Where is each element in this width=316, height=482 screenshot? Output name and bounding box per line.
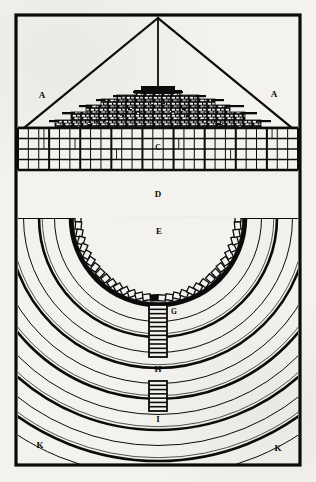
mound-ledge-left-3 xyxy=(79,105,90,107)
niche-box xyxy=(233,229,240,238)
mound-ledge-right-2 xyxy=(241,112,257,114)
label-I: I xyxy=(156,414,160,424)
label-A-left: A xyxy=(39,90,46,100)
niche-2 xyxy=(75,222,82,230)
niche-32 xyxy=(233,229,240,238)
stair-G xyxy=(149,305,167,357)
mound-rubble-2 xyxy=(104,119,109,122)
elevation-view xyxy=(18,18,298,130)
mound-ledge-right-5 xyxy=(195,95,206,97)
masonry-grid-band xyxy=(18,128,298,216)
mound-rubble-7 xyxy=(202,119,207,122)
niche-17 xyxy=(150,295,158,301)
niche-33 xyxy=(234,222,241,230)
niche-box xyxy=(234,222,241,230)
mound-ledge-left-2 xyxy=(62,112,75,114)
stair-I xyxy=(149,381,167,411)
mound-ledge-left-4 xyxy=(96,99,105,101)
figure-canvas: AACDEGHIKK xyxy=(0,0,316,482)
mound-rubble-5 xyxy=(170,111,175,114)
label-K-right: K xyxy=(274,443,281,453)
label-E: E xyxy=(156,226,162,236)
label-D: D xyxy=(155,189,162,199)
mound-rubble-16 xyxy=(150,102,154,104)
mound-rubble-8 xyxy=(218,123,222,126)
mound-rubble-13 xyxy=(214,121,217,123)
niche-box xyxy=(75,222,82,230)
mound-ledge-right-1 xyxy=(257,120,271,122)
mound-rubble-17 xyxy=(162,102,166,104)
niche-16 xyxy=(142,294,150,301)
label-C: C xyxy=(155,143,160,152)
mound-rubble-14 xyxy=(128,108,132,110)
mound-rubble-1 xyxy=(88,123,92,126)
mound-rubble-15 xyxy=(182,108,186,110)
mound-ledge-right-4 xyxy=(211,99,224,101)
amphitheatre-plan xyxy=(0,214,316,476)
engraving-plate: AACDEGHIKK xyxy=(0,0,316,482)
mound-rubble-12 xyxy=(96,121,99,123)
mound-rubble-4 xyxy=(136,111,141,114)
mound-ledge-right-3 xyxy=(226,105,244,107)
mound-ledge-left-5 xyxy=(113,95,121,97)
mound-rubble-3 xyxy=(120,115,124,118)
label-K-left: K xyxy=(36,440,43,450)
amphitheatre-clip-group xyxy=(0,214,316,476)
niche-box xyxy=(150,295,158,301)
label-A-right: A xyxy=(271,89,278,99)
mound-rubble-6 xyxy=(186,115,190,118)
niche-box xyxy=(142,294,150,301)
mound-ledge-left-1 xyxy=(49,120,59,122)
label-G: G xyxy=(171,307,177,316)
mound-summit-cornice xyxy=(134,90,182,93)
label-H: H xyxy=(154,364,161,374)
